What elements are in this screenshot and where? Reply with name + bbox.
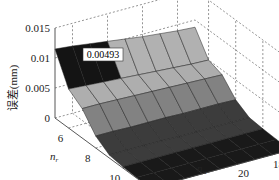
z-axis-label: 误差(mm) — [6, 64, 20, 111]
data-tip-label: 0.00493 — [87, 49, 120, 60]
z-tick-label: 0.01 — [31, 52, 50, 64]
z-tick-label: 0 — [45, 112, 51, 124]
y-tick-label: 22 — [203, 177, 214, 180]
x-tick-label: 8 — [85, 152, 91, 164]
z-tick-label: 0.015 — [25, 22, 50, 34]
annotation-layer: 0.00493 — [83, 48, 123, 61]
y-tick-label: 18 — [273, 158, 279, 170]
y-axis-label-sub: w — [203, 168, 208, 176]
x-tick-label: 6 — [58, 132, 64, 144]
x-axis-label-sub: r — [56, 156, 59, 164]
y-tick-label: 20 — [238, 167, 250, 179]
data-tip: 0.00493 — [83, 48, 123, 61]
surface-chart: 00.0050.010.01568101224222018 误差(mm) nr … — [0, 0, 279, 180]
x-axis-label: nr — [50, 150, 59, 164]
x-tick-label: 10 — [109, 172, 121, 180]
z-tick-label: 0.005 — [25, 82, 50, 94]
